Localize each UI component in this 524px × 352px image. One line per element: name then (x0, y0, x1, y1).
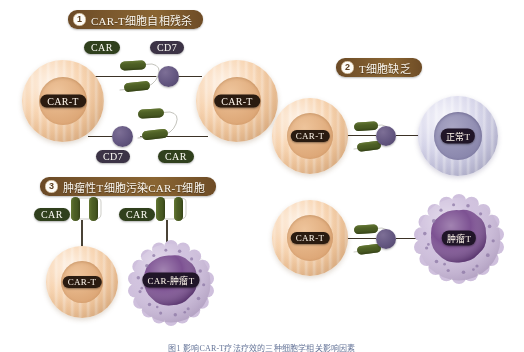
cell-label: CAR-T (291, 232, 330, 244)
panel-2-title: T细胞缺乏 (359, 60, 411, 76)
panel-2-link-right (396, 135, 420, 136)
cell-label: CAR-T (214, 95, 260, 108)
cell-cart-1: CAR-T (22, 60, 104, 142)
nucleus: CAR-T (287, 215, 333, 261)
figure-caption: 图1 影响CAR-T疗法疗效的三种细胞学相关影响因素 (0, 342, 524, 352)
cell-car-tumor-t: CAR-肿瘤T (128, 240, 214, 326)
panel-1-number: 1 (73, 13, 86, 26)
cell-tumor-t: 肿瘤T (414, 194, 504, 284)
label-cd7-bottom: CD7 (96, 150, 130, 163)
panel-3-banner: 3 肿瘤性T细胞污染CAR-T细胞 (40, 177, 216, 196)
cell-label: CAR-T (40, 95, 86, 108)
label-car-panel3-left: CAR (34, 208, 70, 221)
cell-label: CAR-T (63, 276, 102, 288)
car-receptor-bottom (128, 106, 182, 148)
label-car-bottom: CAR (158, 150, 194, 163)
car-receptor-panel3-right (151, 196, 195, 224)
nucleus: CAR-T (213, 77, 261, 125)
cell-cart-4: CAR-T (46, 246, 118, 318)
car-receptor-panel3-left (66, 196, 110, 224)
cell-label: CAR-T (291, 130, 330, 142)
cell-label: CAR-肿瘤T (142, 273, 199, 288)
cell-cart-2: CAR-T (196, 60, 278, 142)
nucleus: 正常T (434, 112, 482, 160)
nucleus: CAR-T (39, 77, 87, 125)
label-car-top: CAR (84, 41, 120, 54)
panel-1-title: CAR-T细胞自相残杀 (91, 12, 192, 28)
label-cd7-top: CD7 (150, 41, 184, 54)
cd7-receptor-panel2 (376, 126, 396, 146)
nucleus: CAR-T (287, 113, 333, 159)
cd7-receptor-top (158, 66, 179, 87)
cell-label: 正常T (441, 129, 475, 144)
cell-cart-3: CAR-T (272, 98, 348, 174)
panel-2-banner: 2 T细胞缺乏 (336, 58, 422, 77)
cd7-receptor-panel4 (376, 229, 396, 249)
panel-1-banner: 1 CAR-T细胞自相残杀 (68, 10, 203, 29)
cell-label: 肿瘤T (442, 231, 476, 246)
panel-3-title: 肿瘤性T细胞污染CAR-T细胞 (63, 179, 205, 195)
panel-2-number: 2 (341, 61, 354, 74)
cell-cart-5: CAR-T (272, 200, 348, 276)
nucleus: CAR-T (61, 261, 103, 303)
label-car-panel3-right: CAR (119, 208, 155, 221)
panel-3-number: 3 (45, 180, 58, 193)
cell-normal-t: 正常T (418, 96, 498, 176)
cd7-receptor-bottom (112, 126, 133, 147)
